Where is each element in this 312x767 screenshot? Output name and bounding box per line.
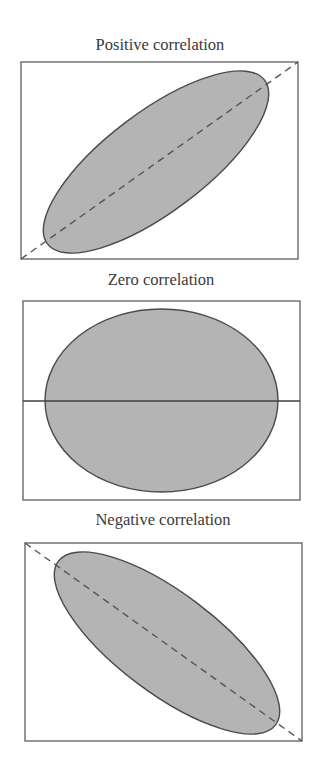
panel-title: Positive correlation [96, 35, 225, 54]
panel-title: Zero correlation [108, 270, 215, 289]
panel-positive-correlation: Positive correlation [17, 35, 298, 284]
scatter-ellipse [17, 40, 294, 284]
trend-line-dashed [25, 543, 302, 741]
correlation-diagram: Positive correlation Zero correlation Ne… [0, 0, 312, 767]
panel-zero-correlation: Zero correlation [23, 270, 300, 500]
trend-line-dashed [21, 62, 298, 259]
panel-title: Negative correlation [95, 510, 230, 529]
scatter-ellipse [28, 521, 305, 765]
panel-negative-correlation: Negative correlation [25, 510, 306, 765]
